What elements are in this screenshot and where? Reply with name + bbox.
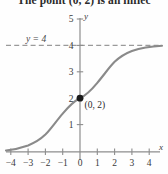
y-tick-label: 5 <box>69 14 74 24</box>
x-axis-label: x <box>158 142 163 152</box>
x-tick-label: 1 <box>95 158 100 168</box>
inflection-point-marker <box>77 95 84 102</box>
logistic-curve <box>6 46 162 151</box>
x-tick-label: −3 <box>23 158 33 168</box>
x-tick-label: 4 <box>147 158 152 168</box>
x-tick-label: −4 <box>6 158 16 168</box>
x-tick-label: −1 <box>58 158 68 168</box>
y-tick-label: 1 <box>69 120 74 130</box>
asymptote-label: y = 4 <box>25 34 46 44</box>
x-tick-label: 2 <box>112 158 117 168</box>
x-tick-label: 0 <box>78 158 83 168</box>
logistic-curve-plot: −4 −3 −2 −1 0 1 2 3 4 5 4 3 2 1 y x y = … <box>0 0 168 174</box>
y-tick-label: 2 <box>69 94 74 104</box>
x-tick-label: −2 <box>40 158 50 168</box>
point-coordinate-label: (0, 2) <box>85 100 106 111</box>
y-tick-label: 3 <box>69 67 74 77</box>
y-tick-label: 4 <box>69 41 74 51</box>
y-axis-label: y <box>83 11 88 21</box>
x-tick-label: 3 <box>130 158 135 168</box>
figure-panel: The point (0, 2) is an inflec <box>0 0 168 174</box>
